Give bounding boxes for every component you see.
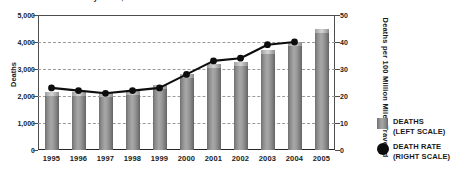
y-axis-right-tick-mark <box>335 69 340 70</box>
legend-item-label-primary: DEATH RATE <box>393 142 450 152</box>
y-axis-left-tick-label: 2,000 <box>1 93 35 100</box>
y-axis-left-tick-label: 1,000 <box>1 120 35 127</box>
line-path <box>52 42 295 93</box>
y-axis-right-tick-label: 30 <box>340 66 366 73</box>
y-axis-left-tick-label: 3,000 <box>1 66 35 73</box>
y-axis-left-title: Deaths <box>9 45 18 105</box>
legend-item-label: DEATHS(LEFT SCALE) <box>393 117 445 136</box>
legend-circle-icon <box>377 143 389 155</box>
line-marker <box>129 87 136 94</box>
y-axis-right-tick-mark <box>335 15 340 16</box>
line-marker <box>291 39 298 46</box>
x-axis-tick-label: 2005 <box>302 154 342 163</box>
line-marker <box>210 58 217 65</box>
legend-item-label-primary: DEATHS <box>393 117 445 127</box>
line-marker <box>156 85 163 92</box>
y-axis-right-tick-label: 40 <box>340 39 366 46</box>
y-axis-left-tick-mark <box>33 150 38 151</box>
y-axis-right-tick-mark <box>335 96 340 97</box>
chart-figure: Fatalities and Fatality Rates, 1995-2005… <box>0 0 457 182</box>
line-marker <box>48 85 55 92</box>
chart-title: Fatalities and Fatality Rates, 1995-2005 <box>18 0 438 2</box>
line-marker <box>102 90 109 97</box>
legend-item-label: DEATH RATE(RIGHT SCALE) <box>393 142 450 161</box>
y-axis-right-tick-label: 20 <box>340 93 366 100</box>
y-axis-right-tick-label: 0 <box>340 147 366 154</box>
line-marker <box>264 41 271 48</box>
legend-item-label-secondary: (LEFT SCALE) <box>393 127 445 137</box>
y-axis-left-tick-label: 4,000 <box>1 39 35 46</box>
legend-item-label-secondary: (RIGHT SCALE) <box>393 152 450 162</box>
legend-square-icon <box>377 118 388 129</box>
line-marker <box>183 71 190 78</box>
line-marker <box>237 55 244 62</box>
chart-legend: DEATHS(LEFT SCALE)DEATH RATE(RIGHT SCALE… <box>377 117 457 167</box>
y-axis-right-tick-label: 50 <box>340 12 366 19</box>
legend-item[interactable]: DEATHS(LEFT SCALE) <box>377 117 457 136</box>
y-axis-left-tick-label: 0 <box>1 147 35 154</box>
y-axis-left-tick-label: 5,000 <box>1 12 35 19</box>
line-series-death-rate <box>38 15 335 150</box>
line-marker <box>75 87 82 94</box>
y-axis-right-tick-label: 10 <box>340 120 366 127</box>
y-axis-right-tick-mark <box>335 123 340 124</box>
y-axis-right-tick-mark <box>335 150 340 151</box>
y-axis-right-tick-mark <box>335 42 340 43</box>
legend-item[interactable]: DEATH RATE(RIGHT SCALE) <box>377 142 457 161</box>
